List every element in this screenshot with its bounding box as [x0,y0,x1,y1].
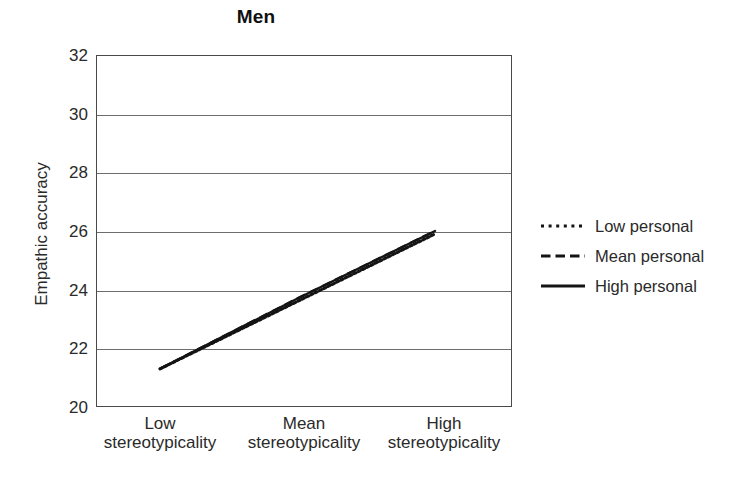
y-tick-label-28: 28 [42,164,88,181]
gridline-30 [97,115,511,116]
y-tick-label-32: 32 [42,47,88,64]
gridline-24 [97,291,511,292]
y-tick-label-30: 30 [42,106,88,123]
legend-swatch-dotted-icon [540,219,586,233]
chart-figure: Men Empathic accuracy 32 30 28 26 24 22 … [0,0,739,494]
gridline-22 [97,349,511,350]
chart-title: Men [0,6,512,28]
plot-area [96,55,512,407]
legend-item-mean-personal: Mean personal [540,241,736,271]
x-axis-tick-labels: Low stereotypicality Mean stereotypicali… [96,414,512,476]
y-tick-label-26: 26 [42,223,88,240]
legend-label-high-personal: High personal [595,277,697,296]
y-axis-tick-labels: 32 30 28 26 24 22 20 [34,55,88,407]
legend-item-high-personal: High personal [540,271,736,301]
gridline-28 [97,173,511,174]
y-tick-label-24: 24 [42,282,88,299]
x-tick-label-high: High stereotypicality [359,414,529,452]
gridline-26 [97,232,511,233]
legend-label-mean-personal: Mean personal [595,247,704,266]
y-tick-label-22: 22 [42,340,88,357]
legend-swatch-solid-icon [540,279,586,293]
chart-legend: Low personal Mean personal High personal [540,211,736,301]
legend-item-low-personal: Low personal [540,211,736,241]
legend-label-low-personal: Low personal [595,217,693,236]
legend-swatch-dashed-icon [540,249,586,263]
